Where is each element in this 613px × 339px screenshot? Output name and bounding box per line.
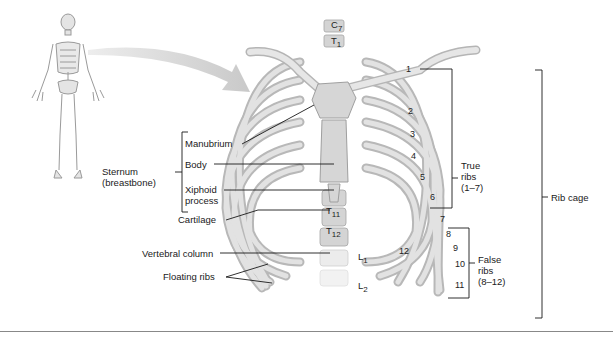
rib-number-12: 12: [399, 246, 409, 256]
rib-number-9: 9: [453, 243, 458, 253]
rib-number-11: 11: [455, 280, 464, 290]
floating-ribs-label: Floating ribs: [163, 271, 215, 282]
rib-number-2: 2: [408, 106, 413, 116]
rib-number-10: 10: [455, 259, 465, 269]
diagram-artwork: [0, 0, 613, 339]
rib-number-3: 3: [410, 129, 415, 139]
rib-number-4: 4: [411, 151, 416, 161]
skeleton-thumbnail-icon: [32, 14, 104, 178]
true-ribs-line1: True: [461, 160, 483, 171]
vertebra-t12-label: T12: [326, 225, 341, 239]
rib-number-8: 8: [446, 229, 451, 239]
xiphoid-label-line1: Xiphoid: [185, 184, 218, 195]
sternum-label: Sternum (breastbone): [102, 166, 156, 188]
xiphoid-process-label: Xiphoid process: [185, 184, 218, 206]
vertebra-t11-label: T11: [326, 205, 340, 219]
rib-number-7: 7: [440, 214, 445, 224]
curved-arrow-icon: [88, 48, 250, 92]
manubrium-label: Manubrium: [185, 138, 233, 149]
bottom-divider: [0, 331, 613, 332]
xiphoid-label-line2: process: [185, 195, 218, 206]
cartilage-label: Cartilage: [178, 214, 216, 225]
vertebra-l1-label: L1: [358, 251, 368, 265]
sternum-label-line1: Sternum: [102, 166, 156, 177]
sternum: [312, 82, 356, 202]
false-ribs-line1: False: [478, 254, 505, 265]
true-ribs-label: True ribs (1–7): [461, 160, 483, 193]
vertebra-c7-label: C7: [331, 19, 342, 33]
rib-number-1: 1: [406, 64, 411, 74]
false-ribs-label: False ribs (8–12): [478, 254, 505, 287]
rib-cage-diagram: C7 T1 T11 T12 L1 L2 1 2 3 4 5 6 7 8 9 10…: [0, 0, 613, 339]
false-ribs-line2: ribs: [478, 265, 505, 276]
vertebra-t1-label: T1: [331, 35, 341, 49]
false-ribs-line3: (8–12): [478, 276, 505, 287]
true-ribs-line3: (1–7): [461, 182, 483, 193]
vertebra-l2-label: L2: [358, 280, 368, 294]
true-ribs-line2: ribs: [461, 171, 483, 182]
rib-number-5: 5: [420, 172, 425, 182]
rib-number-6: 6: [430, 192, 435, 202]
rib-cage-label: Rib cage: [551, 192, 589, 203]
sternum-label-line2: (breastbone): [102, 177, 156, 188]
body-label: Body: [185, 159, 207, 170]
vertebral-column-label: Vertebral column: [142, 248, 213, 259]
